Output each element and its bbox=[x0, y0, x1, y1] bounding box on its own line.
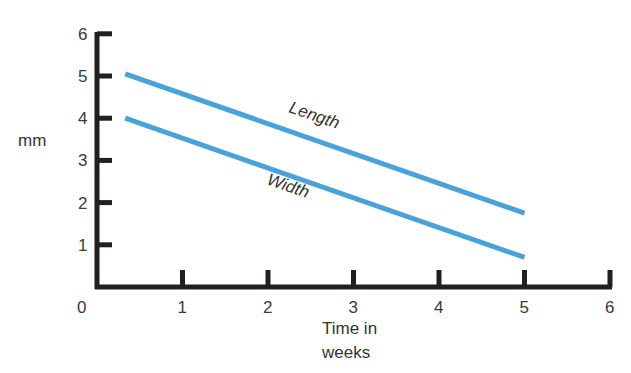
x-tick-label: 6 bbox=[605, 298, 614, 317]
x-tick-label: 0 bbox=[77, 298, 86, 317]
x-tick-label: 4 bbox=[434, 298, 443, 317]
x-tick-label: 1 bbox=[178, 298, 187, 317]
x-tick-label: 2 bbox=[263, 298, 272, 317]
x-tick-labels: 0123456 bbox=[77, 298, 614, 317]
y-tick-labels: 123456 bbox=[78, 25, 87, 255]
y-tick-label: 1 bbox=[78, 236, 87, 255]
y-tick-label: 5 bbox=[78, 67, 87, 86]
series-line-length bbox=[125, 74, 524, 213]
y-tick-label: 2 bbox=[78, 194, 87, 213]
x-tick-label: 3 bbox=[349, 298, 358, 317]
series-lines bbox=[125, 74, 524, 258]
length-series-label: Length bbox=[287, 98, 342, 133]
y-tick-label: 6 bbox=[78, 25, 87, 44]
x-tick-label: 5 bbox=[520, 298, 529, 317]
x-axis-title-line2: weeks bbox=[321, 343, 370, 362]
y-tick-label: 3 bbox=[78, 151, 87, 170]
x-ticks bbox=[183, 270, 611, 287]
axes bbox=[95, 32, 612, 289]
x-axis-title-line1: Time in bbox=[322, 319, 377, 338]
series-line-width bbox=[125, 118, 524, 257]
y-axis-title: mm bbox=[18, 131, 46, 150]
line-chart: 123456 0123456 mm Time in weeks Length W… bbox=[0, 0, 631, 373]
y-tick-label: 4 bbox=[78, 109, 87, 128]
